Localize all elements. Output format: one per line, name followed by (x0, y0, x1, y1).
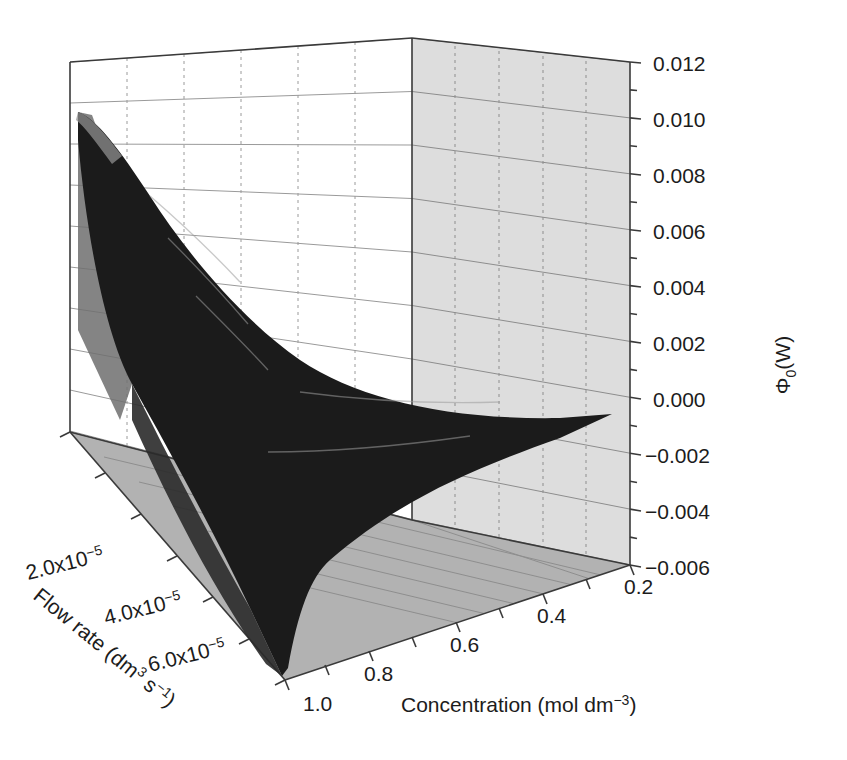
z-axis-ticks (630, 62, 641, 567)
z-tick-label: 0.012 (653, 52, 706, 75)
y-tick-mantissa: 2.0x10 (23, 546, 90, 584)
right-wall (412, 38, 630, 565)
z-tick-label: −0.002 (645, 444, 710, 467)
x-axis-unit-prefix: (mol dm (538, 693, 614, 716)
y-tick-label: 6.0x10−5 (145, 633, 228, 675)
y-tick-mantissa: 4.0x10 (101, 591, 168, 629)
x-tick-label: 0.8 (364, 662, 393, 685)
z-tick-label: 0.008 (653, 164, 706, 187)
z-axis-title: Φ0(W) (771, 336, 799, 394)
y-tick-exponent: −5 (206, 633, 226, 652)
x-tick-label: 0.2 (624, 575, 653, 598)
y-tick-mantissa: 6.0x10 (145, 638, 212, 676)
x-axis-unit-exponent: −3 (613, 692, 629, 708)
z-axis-symbol: Φ (771, 377, 794, 394)
z-axis-subscript: 0 (783, 369, 799, 377)
x-tick-label: 0.4 (537, 604, 567, 627)
plot-canvas: 0.012 0.010 0.008 0.006 0.004 0.002 0.00… (0, 0, 847, 760)
y-tick-label: 4.0x10−5 (101, 586, 184, 628)
z-tick-label: −0.004 (645, 500, 710, 523)
z-tick-label: 0.006 (653, 220, 706, 243)
surface-plot-figure: 0.012 0.010 0.008 0.006 0.004 0.002 0.00… (0, 0, 847, 760)
z-tick-label: 0.000 (653, 388, 706, 411)
y-tick-exponent: −5 (162, 586, 182, 605)
y-tick-label: 2.0x10−5 (23, 541, 106, 583)
svg-text:Φ0(W): Φ0(W) (771, 336, 799, 394)
z-tick-label: −0.006 (645, 556, 710, 579)
z-tick-label: 0.010 (653, 108, 706, 131)
y-axis-title-name: Flow rate (29, 583, 111, 655)
x-tick-label: 0.6 (450, 633, 479, 656)
z-tick-label: 0.002 (653, 332, 706, 355)
z-axis-unit: (W) (771, 336, 794, 370)
x-axis-unit-suffix: ) (629, 693, 636, 716)
x-tick-label: 1.0 (303, 692, 332, 715)
z-tick-label: 0.004 (653, 276, 706, 299)
x-axis-title-name: Concentration (401, 693, 532, 716)
z-axis-tick-labels: 0.012 0.010 0.008 0.006 0.004 0.002 0.00… (645, 52, 710, 579)
y-tick-exponent: −5 (84, 541, 104, 560)
x-axis-title: Concentration (mol dm−3) (401, 692, 636, 716)
